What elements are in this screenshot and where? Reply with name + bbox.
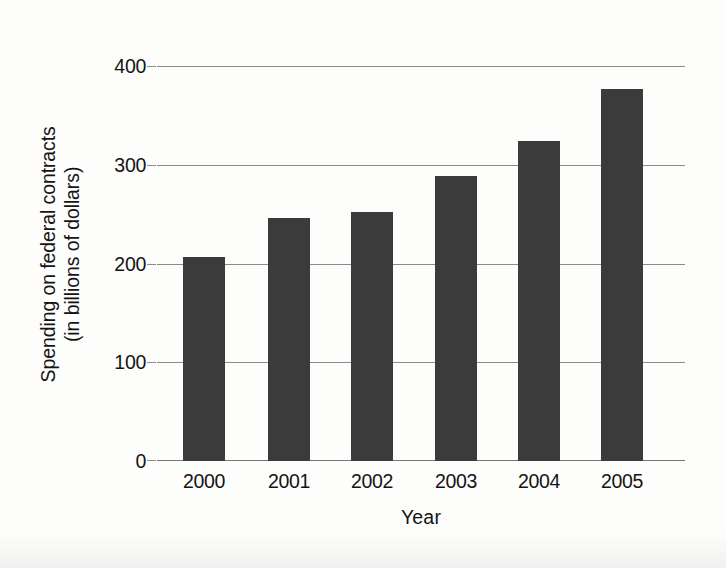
y-axis-title: Spending on federal contracts (in billio…: [36, 54, 85, 454]
bar-2004[interactable]: [518, 141, 560, 461]
y-tick-mark-0: [147, 460, 156, 461]
y-tick-label-200: 200: [114, 252, 146, 275]
scanned-page: 400 300 200 100 0: [0, 0, 726, 568]
bar-chart: 400 300 200 100 0: [0, 0, 726, 568]
gridline-400: [157, 66, 685, 67]
bar-2000[interactable]: [183, 257, 225, 461]
y-tick-label-0: 0: [135, 450, 146, 473]
bar-2002[interactable]: [351, 212, 393, 461]
x-tick-label-2003: 2003: [435, 470, 477, 493]
y-tick-mark-400: [147, 66, 156, 67]
y-tick-label-400: 400: [114, 55, 146, 78]
bar-2001[interactable]: [268, 218, 310, 461]
y-tick-mark-100: [147, 362, 156, 363]
x-axis-tick-labels: 2000 2001 2002 2003 2004 2005: [157, 470, 685, 498]
y-tick-mark-300: [147, 165, 156, 166]
x-tick-label-2002: 2002: [351, 470, 393, 493]
y-axis-title-line2: (in billions of dollars): [60, 54, 84, 454]
x-tick-label-2004: 2004: [518, 470, 560, 493]
bar-2005[interactable]: [601, 89, 643, 461]
y-axis-tick-labels: 400 300 200 100 0: [88, 66, 146, 461]
x-tick-label-2001: 2001: [268, 470, 310, 493]
plot-area: [157, 66, 685, 461]
bar-2003[interactable]: [435, 176, 477, 461]
x-axis-title: Year: [157, 506, 685, 529]
y-axis-title-line1: Spending on federal contracts: [37, 126, 59, 382]
y-tick-mark-200: [147, 264, 156, 265]
y-tick-label-300: 300: [114, 153, 146, 176]
x-tick-label-2000: 2000: [183, 470, 225, 493]
x-tick-label-2005: 2005: [601, 470, 643, 493]
y-tick-label-100: 100: [114, 351, 146, 374]
